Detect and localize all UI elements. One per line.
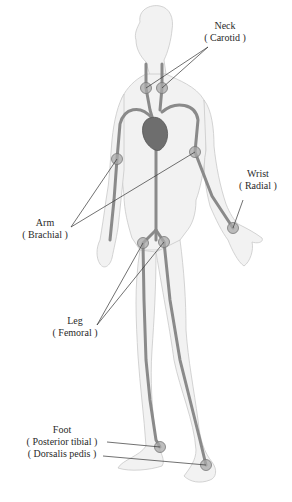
- body-silhouette: [97, 6, 262, 482]
- label-wrist: Wrist ( Radial ): [228, 168, 288, 192]
- label-neck-name: Neck: [190, 20, 260, 32]
- label-neck-artery: ( Carotid ): [190, 32, 260, 44]
- label-leg-name: Leg: [40, 315, 110, 327]
- label-arm-artery: ( Brachial ): [10, 229, 80, 241]
- label-arm-name: Arm: [10, 217, 80, 229]
- label-arm: Arm ( Brachial ): [10, 217, 80, 241]
- label-leg-artery: ( Femoral ): [40, 327, 110, 339]
- label-foot-name: Foot: [16, 424, 108, 436]
- label-neck: Neck ( Carotid ): [190, 20, 260, 44]
- label-leg: Leg ( Femoral ): [40, 315, 110, 339]
- label-wrist-artery: ( Radial ): [228, 180, 288, 192]
- label-foot-dorsalis-pedis: ( Dorsalis pedis ): [16, 448, 108, 460]
- label-foot-posterior-tibial: ( Posterior tibial ): [16, 436, 108, 448]
- label-foot: Foot ( Posterior tibial ) ( Dorsalis ped…: [16, 424, 108, 460]
- label-wrist-name: Wrist: [228, 168, 288, 180]
